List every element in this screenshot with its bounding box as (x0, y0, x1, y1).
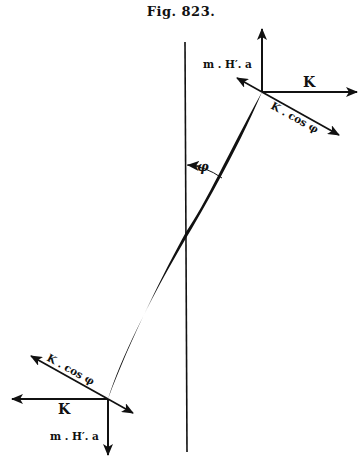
meridian-line (185, 42, 187, 452)
bottom-oblique-label: K . cos φ (45, 351, 97, 387)
top-vertical-label: m . H′. a (203, 58, 252, 70)
force-diagram: φ m . H′. a K K . cos φ K . cos φ K m . … (0, 0, 362, 457)
top-oblique-label: K . cos φ (269, 99, 321, 135)
top-horizontal-label: K (303, 74, 316, 90)
top-short-arrow (237, 78, 262, 92)
bottom-vertical-label: m . H′. a (50, 430, 99, 442)
bottom-horizontal-label: K (58, 401, 71, 417)
bottom-short-arrow (108, 399, 133, 413)
angle-phi-label: φ (197, 159, 209, 174)
figure-823: Fig. 823. φ m . H′. a K K . cos φ K . co… (0, 0, 362, 457)
